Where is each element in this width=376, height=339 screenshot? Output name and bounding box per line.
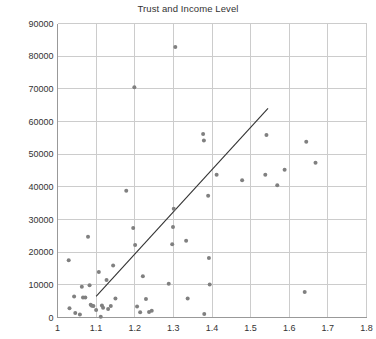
x-axis-tick-label: 1.1 — [76, 323, 116, 333]
trend-line — [96, 108, 268, 296]
y-axis-tick-label: 10000 — [28, 280, 53, 290]
x-axis-tick-label: 1.7 — [308, 323, 348, 333]
x-axis-tick-label: 1.6 — [269, 323, 309, 333]
gridlines — [58, 24, 367, 318]
y-axis-tick-label: 50000 — [28, 149, 53, 159]
x-axis-tick-label: 1.4 — [192, 323, 232, 333]
x-axis-tick-label: 1.3 — [153, 323, 193, 333]
x-axis-tick-label: 1 — [38, 323, 78, 333]
y-axis-tick-label: 70000 — [28, 84, 53, 94]
plot-area — [0, 0, 376, 339]
x-axis-tick-label: 1.2 — [115, 323, 155, 333]
y-axis-tick-label: 30000 — [28, 215, 53, 225]
x-axis-tick-label: 1.5 — [231, 323, 271, 333]
x-axis-tick-label: 1.8 — [347, 323, 376, 333]
y-axis-tick-label: 20000 — [28, 247, 53, 257]
y-axis-tick-label: 90000 — [28, 19, 53, 29]
y-axis-tick-label: 80000 — [28, 51, 53, 61]
y-axis-tick-label: 0 — [48, 313, 53, 323]
y-axis-tick-label: 40000 — [28, 182, 53, 192]
data-points — [67, 45, 318, 319]
scatter-chart: Trust and Income Level 01000020000300004… — [0, 0, 376, 339]
y-axis-tick-label: 60000 — [28, 117, 53, 127]
